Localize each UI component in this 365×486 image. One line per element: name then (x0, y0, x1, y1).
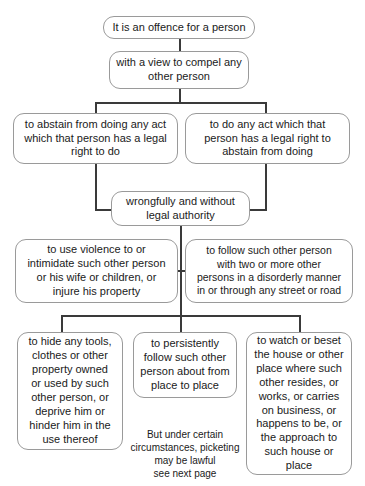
node-watch-beset[interactable]: to watch or beset the house or other pla… (246, 332, 352, 475)
node-persistently-follow-label: to persistently follow such other person… (140, 337, 229, 393)
node-offence-label: It is an offence for a person (112, 21, 245, 35)
connector-tier6-left-drop (61, 315, 63, 332)
node-wrongfully[interactable]: wrongfully and without legal authority (111, 191, 250, 226)
node-abstain-label: to abstain from doing any act which that… (24, 118, 166, 160)
connector-doanyact-drop (265, 163, 267, 211)
node-hide-tools[interactable]: to hide any tools, clothes or other prop… (17, 332, 123, 450)
connector-abstain-drop (95, 163, 97, 211)
node-hide-tools-label: to hide any tools, clothes or other prop… (28, 335, 111, 447)
node-offence[interactable]: It is an offence for a person (103, 16, 255, 39)
node-do-any-act[interactable]: to do any act which that person has a le… (185, 113, 350, 164)
connector-compel-drop (179, 88, 181, 103)
connector-tier6-middle-drop (180, 315, 182, 332)
connector-tier3-bus (95, 102, 267, 104)
node-compel-label: with a view to compel any other person (116, 56, 241, 84)
connector-tier6-right-drop (299, 315, 301, 332)
node-persistently-follow[interactable]: to persistently follow such other person… (133, 332, 237, 398)
note-picketing: But under certain circumstances, picketi… (125, 428, 245, 480)
connector-doanyact-to-wrongfully (249, 209, 267, 211)
node-follow-disorderly-label: to follow such other person with two or … (197, 244, 341, 297)
node-watch-beset-label: to watch or beset the house or other pla… (254, 334, 343, 474)
node-violence-label: to use violence to or intimidate such ot… (27, 243, 165, 299)
node-wrongfully-label: wrongfully and without legal authority (126, 195, 235, 223)
node-compel[interactable]: with a view to compel any other person (109, 51, 249, 89)
connector-offence-to-compel (179, 38, 181, 52)
node-follow-disorderly[interactable]: to follow such other person with two or … (185, 239, 353, 303)
flowchart-diagram: It is an offence for a person with a vie… (0, 0, 365, 486)
node-violence[interactable]: to use violence to or intimidate such ot… (15, 239, 178, 303)
node-abstain[interactable]: to abstain from doing any act which that… (13, 113, 178, 164)
node-do-any-act-label: to do any act which that person has a le… (204, 118, 331, 160)
